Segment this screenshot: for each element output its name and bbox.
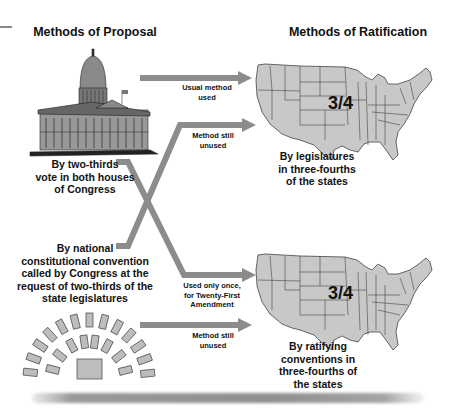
proposal-congress-label: By two-thirds vote in both houses of Con… (25, 158, 145, 196)
fraction-three-fourths: 3/4 (328, 283, 353, 304)
arrow-label-unused-upper: Method still unused (180, 131, 246, 150)
connector-arrows (0, 0, 456, 416)
ratification-conventions-label: By ratifying conventions in three-fourth… (268, 340, 368, 390)
convention-seating-icon (23, 313, 155, 379)
arrow-label-used-once: Used only once, for Twenty-First Amendme… (176, 281, 248, 310)
proposal-convention-label: By national constitutional convention ca… (10, 242, 160, 305)
arrow-label-unused-lower: Method still unused (180, 331, 246, 350)
fraction-three-fourths: 3/4 (328, 93, 353, 114)
capitol-building-icon (30, 49, 158, 156)
bottom-shadow-bar (32, 393, 424, 403)
ratification-legislatures-label: By legislatures in three-fourths of the … (262, 150, 372, 188)
arrow-label-usual: Usual method used (172, 83, 242, 102)
